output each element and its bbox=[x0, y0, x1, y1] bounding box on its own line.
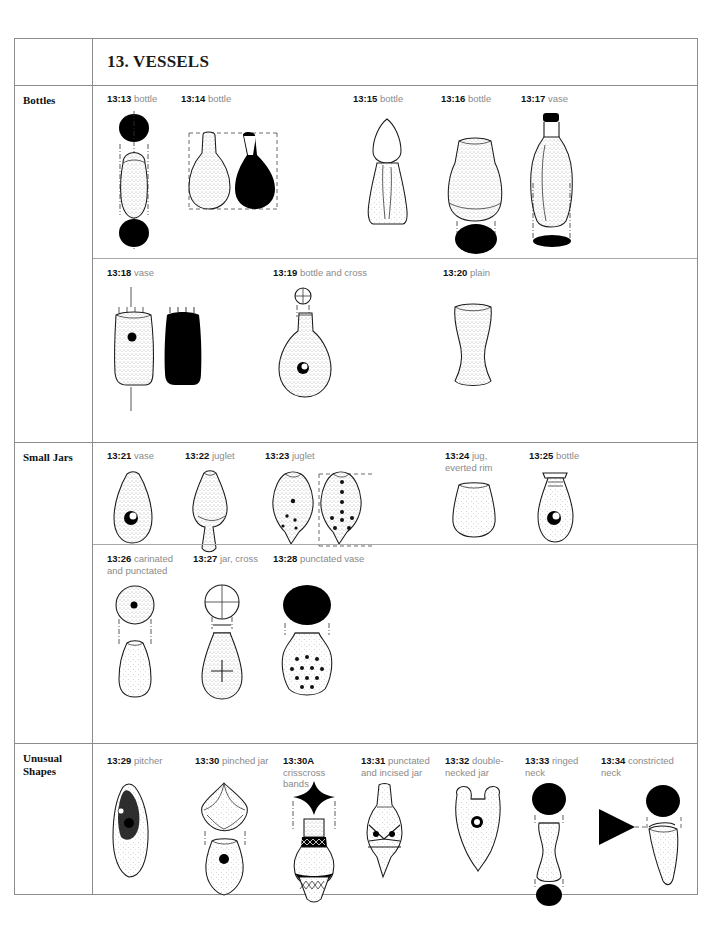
category-cell-bottles: Bottles bbox=[15, 86, 93, 442]
content-bottles: 13:13 bottle 13:14 bottle bbox=[93, 86, 697, 442]
item-13-14[interactable]: 13:14 bottle bbox=[181, 93, 231, 105]
item-13-21[interactable]: 13:21 vase bbox=[107, 450, 154, 462]
figure-bottle-cross-13-19 bbox=[273, 285, 341, 410]
figure-carinated-13-26 bbox=[107, 583, 167, 703]
item-13-24-label: 13:24 jug, everted rim bbox=[445, 450, 515, 473]
figure-bottle-13-16 bbox=[441, 111, 511, 256]
item-13-16[interactable]: 13:16 bottle bbox=[441, 93, 491, 105]
figure-bottle-13-13 bbox=[107, 111, 167, 251]
section-unusual-shapes: Unusual Shapes 13:29 pitcher 13:30 pinch… bbox=[15, 744, 697, 895]
content-small-jars: 13:21 vase 13:22 juglet bbox=[93, 443, 697, 743]
figure-jug-13-24 bbox=[445, 480, 503, 542]
item-13-30a[interactable]: 13:30A crisscross bands bbox=[283, 755, 353, 790]
item-13-16-label: 13:16 bottle bbox=[441, 93, 491, 105]
figure-juglet-13-23 bbox=[265, 468, 383, 554]
item-13-30-label: 13:30 pinched jar bbox=[195, 755, 268, 767]
page-title: 13. VESSELS bbox=[107, 52, 209, 72]
item-13-22-label: 13:22 juglet bbox=[185, 450, 235, 462]
item-13-27[interactable]: 13:27 jar, cross bbox=[193, 553, 258, 565]
section-bottles: Bottles 13:13 bottle 13:14 bbox=[15, 86, 697, 443]
item-13-14-label: 13:14 bottle bbox=[181, 93, 231, 105]
figure-plain-13-20 bbox=[443, 285, 503, 400]
item-13-23[interactable]: 13:23 juglet bbox=[265, 450, 315, 462]
figure-bottle-13-25 bbox=[529, 468, 583, 550]
item-13-15[interactable]: 13:15 bottle bbox=[353, 93, 403, 105]
item-13-28[interactable]: 13:28 punctated vase bbox=[273, 553, 364, 565]
figure-punctated-jar-13-31 bbox=[361, 781, 409, 886]
page-header: 13. VESSELS bbox=[15, 39, 697, 86]
figure-bottle-13-14 bbox=[181, 111, 286, 231]
figure-vase-13-17 bbox=[521, 111, 583, 261]
item-13-15-label: 13:15 bottle bbox=[353, 93, 403, 105]
figure-pinched-jar-13-30 bbox=[195, 781, 255, 899]
category-cell-unusual-shapes: Unusual Shapes bbox=[15, 744, 93, 895]
small-jars-subrow-divider bbox=[93, 544, 697, 545]
item-13-25[interactable]: 13:25 bottle bbox=[529, 450, 579, 462]
item-13-20[interactable]: 13:20 plain bbox=[443, 267, 490, 279]
item-13-31-label: 13:31 punctated and incised jar bbox=[361, 755, 439, 778]
item-13-13[interactable]: 13:13 bottle bbox=[107, 93, 157, 105]
item-13-23-label: 13:23 juglet bbox=[265, 450, 315, 462]
item-13-33-label: 13:33 ringed neck bbox=[525, 755, 587, 778]
section-small-jars: Small Jars 13:21 vase 13:22 juglet bbox=[15, 443, 697, 744]
item-13-13-label: 13:13 bottle bbox=[107, 93, 157, 105]
figure-pitcher-13-29 bbox=[107, 781, 159, 886]
item-13-32-label: 13:32 double-necked jar bbox=[445, 755, 517, 778]
figure-vase-13-18 bbox=[107, 285, 207, 415]
bottles-subrow-divider bbox=[93, 258, 697, 259]
item-13-19-label: 13:19 bottle and cross bbox=[273, 267, 367, 279]
figure-punctated-vase-13-28 bbox=[273, 583, 341, 703]
category-cell-small-jars: Small Jars bbox=[15, 443, 93, 743]
item-13-19[interactable]: 13:19 bottle and cross bbox=[273, 267, 367, 279]
item-13-20-label: 13:20 plain bbox=[443, 267, 490, 279]
item-13-24[interactable]: 13:24 jug, everted rim bbox=[445, 450, 515, 473]
item-13-18[interactable]: 13:18 vase bbox=[107, 267, 154, 279]
item-13-30[interactable]: 13:30 pinched jar bbox=[195, 755, 268, 767]
figure-constricted-neck-13-34 bbox=[587, 781, 697, 899]
item-13-26[interactable]: 13:26 carinated and punctated bbox=[107, 553, 189, 576]
content-unusual-shapes: 13:29 pitcher 13:30 pinched jar bbox=[93, 744, 697, 895]
item-13-34-label: 13:34 constricted neck bbox=[601, 755, 683, 778]
category-label-bottles: Bottles bbox=[23, 94, 89, 107]
figure-jar-cross-13-27 bbox=[193, 583, 253, 703]
item-13-18-label: 13:18 vase bbox=[107, 267, 154, 279]
category-label-unusual-shapes: Unusual Shapes bbox=[23, 752, 89, 778]
item-13-22[interactable]: 13:22 juglet bbox=[185, 450, 235, 462]
item-13-34[interactable]: 13:34 constricted neck bbox=[601, 755, 683, 778]
figure-crisscross-13-30a bbox=[283, 781, 345, 906]
item-13-25-label: 13:25 bottle bbox=[529, 450, 579, 462]
figure-bottle-13-15 bbox=[353, 111, 423, 236]
item-13-27-label: 13:27 jar, cross bbox=[193, 553, 258, 565]
header-left-cell bbox=[15, 39, 93, 85]
item-13-17-label: 13:17 vase bbox=[521, 93, 568, 105]
item-13-17[interactable]: 13:17 vase bbox=[521, 93, 568, 105]
category-label-small-jars: Small Jars bbox=[23, 451, 89, 464]
item-13-29-label: 13:29 pitcher bbox=[107, 755, 162, 767]
item-13-32[interactable]: 13:32 double-necked jar bbox=[445, 755, 517, 778]
item-13-28-label: 13:28 punctated vase bbox=[273, 553, 364, 565]
figure-juglet-13-22 bbox=[185, 468, 239, 556]
item-13-33[interactable]: 13:33 ringed neck bbox=[525, 755, 587, 778]
figure-ringed-neck-13-33 bbox=[525, 781, 577, 907]
catalog-page: 13. VESSELS Bottles 13:13 bottle bbox=[14, 38, 698, 895]
item-13-26-label: 13:26 carinated and punctated bbox=[107, 553, 189, 576]
figure-vase-13-21 bbox=[107, 468, 161, 550]
item-13-21-label: 13:21 vase bbox=[107, 450, 154, 462]
item-13-29[interactable]: 13:29 pitcher bbox=[107, 755, 162, 767]
figure-double-necked-13-32 bbox=[445, 781, 511, 881]
item-13-31[interactable]: 13:31 punctated and incised jar bbox=[361, 755, 439, 778]
